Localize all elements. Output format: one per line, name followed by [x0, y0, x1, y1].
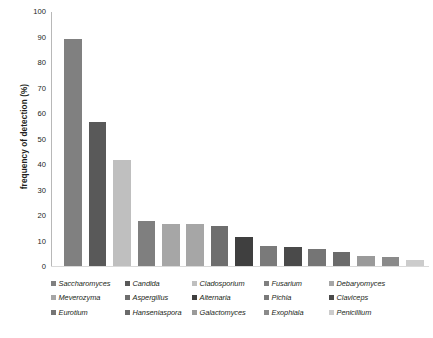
bar — [406, 260, 424, 266]
legend-color-swatch — [125, 310, 130, 315]
legend-item[interactable]: Galactomyces — [192, 305, 264, 320]
bar — [138, 221, 156, 266]
bar — [211, 226, 229, 266]
legend-item[interactable]: Alternaria — [192, 291, 264, 306]
legend-item-label: Exophiala — [272, 309, 304, 316]
legend-item[interactable]: Exophiala — [264, 305, 329, 320]
plot-area: 0102030405060708090100 — [51, 12, 429, 267]
bar — [308, 249, 326, 266]
legend-item[interactable]: Debaryomyces — [329, 276, 413, 291]
bar — [186, 224, 204, 266]
legend-item[interactable]: Claviceps — [329, 291, 413, 306]
legend-item[interactable]: Candida — [125, 276, 192, 291]
legend-item-label: Meverozyma — [59, 294, 101, 301]
legend-item[interactable]: Hanseniaspora — [125, 305, 192, 320]
y-tick-label: 80 — [38, 59, 46, 67]
legend-item-label: Candida — [133, 280, 160, 287]
bar-chart: frequency of detection (%) 0102030405060… — [0, 0, 433, 338]
legend-color-swatch — [51, 295, 56, 300]
y-tick-label: 0 — [42, 263, 46, 271]
legend-color-swatch — [192, 281, 197, 286]
x-axis-baseline — [51, 266, 429, 267]
y-axis-line — [51, 12, 52, 267]
y-tick-label: 60 — [38, 110, 46, 118]
legend-item[interactable]: Pichia — [264, 291, 329, 306]
legend-color-swatch — [51, 281, 56, 286]
legend-item-label: Fusarium — [272, 280, 302, 287]
y-tick-label: 40 — [38, 161, 46, 169]
y-tick-label: 50 — [38, 136, 46, 144]
legend-item[interactable]: Aspergillus — [125, 291, 192, 306]
legend-color-swatch — [51, 310, 56, 315]
y-tick-label: 10 — [38, 238, 46, 246]
legend-item[interactable]: Cladosporium — [192, 276, 264, 291]
y-tick-label: 70 — [38, 85, 46, 93]
legend-color-swatch — [125, 281, 130, 286]
legend-color-swatch — [264, 295, 269, 300]
bar — [89, 122, 107, 266]
legend-item[interactable]: Penicillium — [329, 305, 413, 320]
legend-color-swatch — [264, 281, 269, 286]
y-axis-label: frequency of detection (%) — [20, 57, 29, 217]
y-tick-label: 90 — [38, 34, 46, 42]
bar — [284, 247, 302, 266]
legend-color-swatch — [329, 281, 334, 286]
bar — [235, 237, 253, 266]
legend-item-label: Debaryomyces — [337, 280, 386, 287]
bar — [162, 224, 180, 266]
legend-item-label: Eurotium — [59, 309, 88, 316]
bar — [333, 252, 351, 266]
legend-color-swatch — [264, 310, 269, 315]
legend-color-swatch — [329, 310, 334, 315]
legend-color-swatch — [125, 295, 130, 300]
legend-color-swatch — [192, 310, 197, 315]
y-tick-label: 30 — [38, 187, 46, 195]
bar — [382, 257, 400, 266]
chart-legend: SaccharomycesCandidaCladosporiumFusarium… — [51, 276, 429, 326]
legend-item-label: Hanseniaspora — [133, 309, 182, 316]
legend-item[interactable]: Eurotium — [51, 305, 125, 320]
bar — [357, 256, 375, 266]
legend-color-swatch — [192, 295, 197, 300]
legend-item-label: Penicillium — [337, 309, 372, 316]
legend-item-label: Galactomyces — [200, 309, 246, 316]
bar — [64, 39, 82, 266]
y-tick-label: 100 — [33, 8, 46, 16]
legend-item[interactable]: Meverozyma — [51, 291, 125, 306]
legend-item-label: Claviceps — [337, 294, 369, 301]
legend-item-label: Cladosporium — [200, 280, 245, 287]
legend-item-label: Saccharomyces — [59, 280, 111, 287]
legend-item-label: Aspergillus — [133, 294, 169, 301]
legend-item-label: Pichia — [272, 294, 292, 301]
legend-item[interactable]: Saccharomyces — [51, 276, 125, 291]
y-tick-label: 20 — [38, 212, 46, 220]
bar — [260, 246, 278, 266]
legend-item[interactable]: Fusarium — [264, 276, 329, 291]
bar — [113, 160, 131, 266]
bar-series — [61, 12, 427, 266]
legend-item-label: Alternaria — [200, 294, 231, 301]
legend-color-swatch — [329, 295, 334, 300]
